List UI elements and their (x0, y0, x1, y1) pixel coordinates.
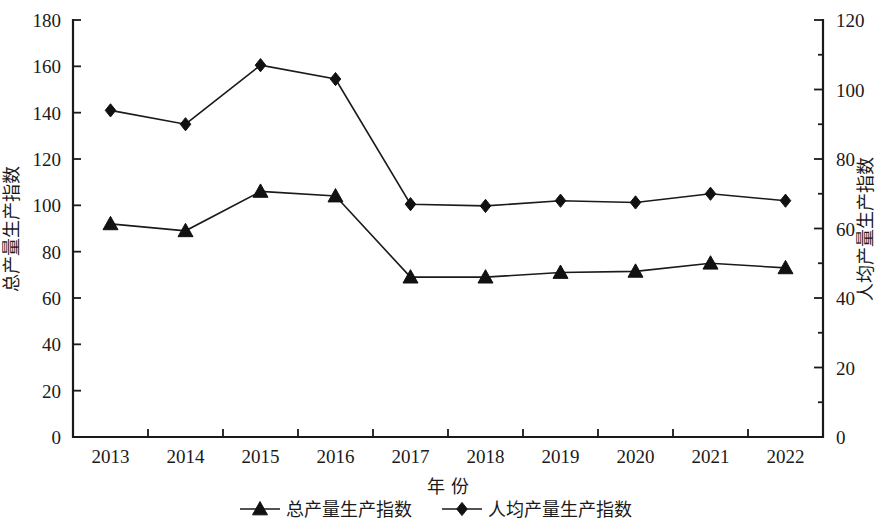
data-point-marker-diamond (105, 104, 116, 117)
data-point-marker-triangle (103, 216, 118, 229)
data-point-marker-triangle (253, 502, 268, 515)
left-axis-tick-label: 60 (42, 288, 61, 309)
right-axis-tick-label: 120 (836, 10, 865, 31)
chart-series (103, 59, 793, 283)
right-axis-tick-label: 100 (836, 80, 865, 101)
data-point-marker-diamond (457, 502, 468, 515)
data-point-marker-triangle (253, 184, 268, 197)
right-axis-tick-label: 0 (836, 427, 846, 448)
x-axis-tick-label: 2015 (242, 446, 280, 467)
legend-item-total[interactable]: 总产量生产指数 (240, 499, 412, 520)
x-axis-tick-label: 2017 (392, 446, 430, 467)
left-axis-tick-label: 20 (42, 381, 61, 402)
data-point-marker-diamond (480, 199, 491, 212)
x-axis-tick-label: 2013 (92, 446, 130, 467)
legend-label: 人均产量生产指数 (488, 499, 632, 520)
left-axis-tick-label: 100 (33, 195, 62, 216)
left-axis-title: 总产量生产指数 (1, 166, 22, 292)
left-axis-tick-label: 140 (33, 103, 62, 124)
left-axis-tick-label: 0 (52, 427, 62, 448)
data-point-marker-diamond (255, 59, 266, 72)
legend-item-per-capita[interactable]: 人均产量生产指数 (442, 499, 632, 520)
data-point-marker-diamond (705, 187, 716, 200)
x-axis-tick-label: 2019 (542, 446, 580, 467)
chart-figure: 020406080100120140160180 020406080100120… (0, 0, 885, 524)
right-axis-tick-label: 20 (836, 358, 855, 379)
line-chart: 020406080100120140160180 020406080100120… (0, 0, 885, 524)
legend-label: 总产量生产指数 (286, 499, 412, 520)
left-axis-tick-label: 180 (33, 10, 62, 31)
series-per-capita (105, 59, 791, 213)
left-axis-tick-label: 40 (42, 334, 61, 355)
series-line (111, 65, 786, 206)
left-axis-tick-label: 80 (42, 242, 61, 263)
x-axis-ticks: 2013201420152016201720182019202020212022 (92, 429, 805, 467)
chart-axis-titles: 总产量生产指数人均产量生产指数年 份 (1, 157, 876, 498)
x-axis-tick-label: 2021 (692, 446, 730, 467)
right-axis-tick-label: 60 (836, 219, 855, 240)
left-axis-tick-label: 160 (33, 56, 62, 77)
x-axis-tick-label: 2022 (767, 446, 805, 467)
data-point-marker-triangle (703, 256, 718, 269)
data-point-marker-diamond (630, 196, 641, 209)
x-axis-tick-label: 2020 (617, 446, 655, 467)
x-axis-tick-label: 2018 (467, 446, 505, 467)
left-axis-tick-label: 120 (33, 149, 62, 170)
right-axis-tick-label: 40 (836, 288, 855, 309)
series-total (103, 184, 793, 283)
data-point-marker-diamond (180, 118, 191, 131)
x-axis-title: 年 份 (427, 476, 469, 497)
right-axis-title: 人均产量生产指数 (855, 157, 876, 301)
data-point-marker-diamond (780, 194, 791, 207)
x-axis-tick-label: 2014 (167, 446, 206, 467)
data-point-marker-diamond (555, 194, 566, 207)
right-axis-tick-label: 80 (836, 149, 855, 170)
chart-legend[interactable]: 总产量生产指数人均产量生产指数 (240, 499, 632, 520)
x-axis-tick-label: 2016 (317, 446, 355, 467)
